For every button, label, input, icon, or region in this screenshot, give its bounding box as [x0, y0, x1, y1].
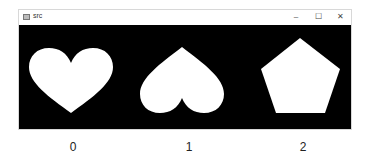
- maximize-button[interactable]: ☐: [311, 11, 325, 23]
- app-icon: [23, 14, 30, 20]
- shape-label-1: 1: [179, 140, 199, 154]
- shape-label-2: 2: [293, 140, 313, 154]
- minimize-button[interactable]: –: [289, 11, 303, 23]
- pentagon-shape-2: [261, 38, 340, 113]
- close-button[interactable]: ✕: [333, 11, 347, 23]
- window-title: src: [33, 12, 42, 19]
- image-canvas: [19, 25, 351, 129]
- app-window: src – ☐ ✕: [18, 9, 352, 130]
- shape-label-0: 0: [63, 140, 83, 154]
- heart-shape-0: [29, 48, 113, 113]
- title-bar[interactable]: src – ☐ ✕: [19, 10, 351, 25]
- heart-shape-1: [140, 47, 224, 113]
